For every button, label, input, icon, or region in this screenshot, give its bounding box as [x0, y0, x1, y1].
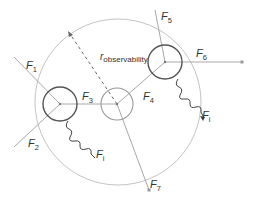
label-fi-right: Fi	[202, 109, 211, 124]
label-fi-left: Fi	[96, 148, 105, 163]
force-line-f4	[117, 62, 165, 104]
radius-label: robservability	[100, 51, 148, 64]
observability-diagram: robservability F1 F2 F3 F4 F5 F6 F7 Fi F…	[0, 0, 255, 200]
observability-circle	[35, 19, 201, 185]
force-line-f7	[117, 104, 149, 190]
force-f6-arrowhead	[241, 61, 244, 64]
node-center-center	[116, 103, 118, 105]
label-f6: F6	[196, 47, 207, 62]
label-f1: F1	[26, 59, 37, 74]
node-left-center	[59, 103, 61, 105]
wavy-line-left	[66, 121, 95, 158]
label-f7: F7	[150, 178, 161, 193]
radius-arrow	[70, 34, 117, 104]
node-upper-right-center	[164, 61, 166, 63]
label-f5: F5	[161, 10, 172, 25]
label-f2: F2	[28, 137, 39, 152]
radius-arrowhead	[68, 31, 73, 37]
label-f4: F4	[143, 90, 154, 105]
label-f3: F3	[82, 90, 93, 105]
force-line-f2	[14, 104, 60, 147]
wavy-line-right	[176, 79, 204, 118]
force-line-f1	[14, 57, 60, 104]
